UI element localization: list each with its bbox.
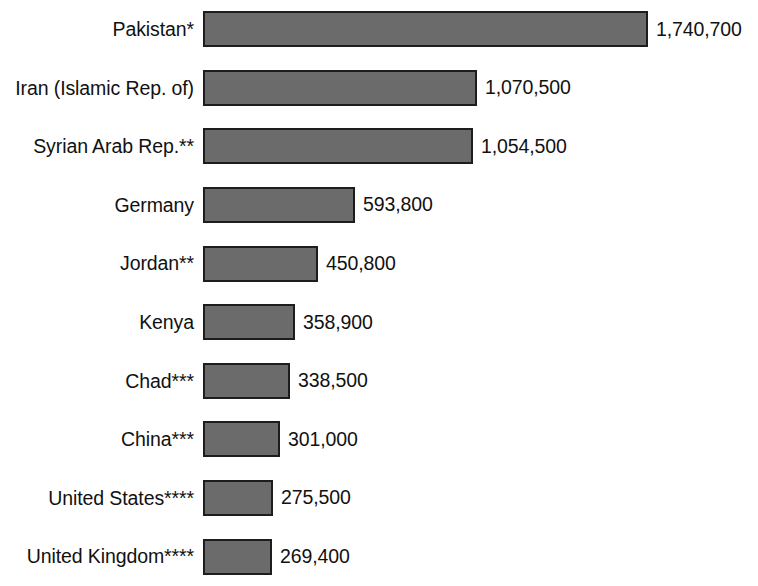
bar-row: Kenya358,900: [0, 293, 758, 352]
bar-area: 269,400: [203, 527, 758, 586]
category-label: Iran (Islamic Rep. of): [0, 78, 203, 98]
bar: [203, 421, 280, 457]
bar-row: Pakistan*1,740,700: [0, 0, 758, 59]
bar-area: 1,070,500: [203, 59, 758, 118]
value-label: 1,054,500: [473, 137, 567, 157]
bar: [203, 304, 295, 340]
bar-area: 1,054,500: [203, 117, 758, 176]
bar-row: China***301,000: [0, 410, 758, 469]
value-label: 358,900: [295, 313, 373, 333]
category-label: Syrian Arab Rep.**: [0, 136, 203, 156]
bar: [203, 246, 318, 282]
value-label: 450,800: [318, 254, 396, 274]
bar-area: 275,500: [203, 469, 758, 528]
bar-row: Germany593,800: [0, 176, 758, 235]
category-label: Pakistan*: [0, 19, 203, 39]
bar: [203, 11, 648, 47]
category-label: United States****: [0, 488, 203, 508]
bar-row: United Kingdom****269,400: [0, 527, 758, 586]
bar-area: 338,500: [203, 352, 758, 411]
category-label: Germany: [0, 195, 203, 215]
category-label: United Kingdom****: [0, 546, 203, 566]
bar-row-list: Pakistan*1,740,700Iran (Islamic Rep. of)…: [0, 0, 758, 586]
bar-area: 358,900: [203, 293, 758, 352]
value-label: 301,000: [280, 430, 358, 450]
category-label: Kenya: [0, 312, 203, 332]
bar-row: Syrian Arab Rep.**1,054,500: [0, 117, 758, 176]
bar-row: Jordan**450,800: [0, 234, 758, 293]
category-label: Jordan**: [0, 253, 203, 273]
bar: [203, 70, 477, 106]
bar: [203, 128, 473, 164]
bar-row: United States****275,500: [0, 469, 758, 528]
value-label: 269,400: [272, 547, 350, 567]
bar-row: Chad***338,500: [0, 352, 758, 411]
horizontal-bar-chart: Pakistan*1,740,700Iran (Islamic Rep. of)…: [0, 0, 758, 586]
value-label: 275,500: [273, 488, 351, 508]
bar-area: 301,000: [203, 410, 758, 469]
bar: [203, 539, 272, 575]
category-label: Chad***: [0, 371, 203, 391]
bar-area: 450,800: [203, 234, 758, 293]
value-label: 593,800: [355, 195, 433, 215]
category-label: China***: [0, 429, 203, 449]
bar: [203, 187, 355, 223]
bar-area: 593,800: [203, 176, 758, 235]
bar-area: 1,740,700: [203, 0, 758, 59]
bar: [203, 480, 273, 516]
bar: [203, 363, 290, 399]
value-label: 338,500: [290, 371, 368, 391]
bar-row: Iran (Islamic Rep. of)1,070,500: [0, 59, 758, 118]
value-label: 1,740,700: [648, 20, 742, 40]
value-label: 1,070,500: [477, 78, 571, 98]
